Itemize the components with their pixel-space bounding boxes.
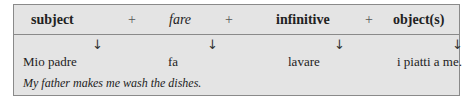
down-arrow-icon: ↓ (334, 38, 345, 52)
header-objects: object(s) (393, 12, 444, 28)
grammar-box: subject + fare + infinitive + object(s) … (13, 4, 460, 96)
header-subject: subject (31, 12, 74, 28)
plus-sign: + (128, 12, 136, 28)
header-infinitive: infinitive (276, 12, 330, 28)
down-arrow-icon: ↓ (452, 38, 463, 52)
header-fare: fare (169, 12, 191, 28)
header-row: subject + fare + infinitive + object(s) (14, 5, 459, 35)
down-arrow-icon: ↓ (92, 38, 103, 52)
plus-sign: + (365, 12, 373, 28)
example-fare: fa (168, 54, 178, 70)
example-objects: i piatti a me. (397, 54, 462, 70)
example-infinitive: lavare (288, 54, 320, 70)
down-arrow-icon: ↓ (207, 38, 218, 52)
plus-sign: + (225, 12, 233, 28)
example-subject: Mio padre (23, 54, 77, 70)
translation: My father makes me wash the dishes. (23, 75, 201, 91)
